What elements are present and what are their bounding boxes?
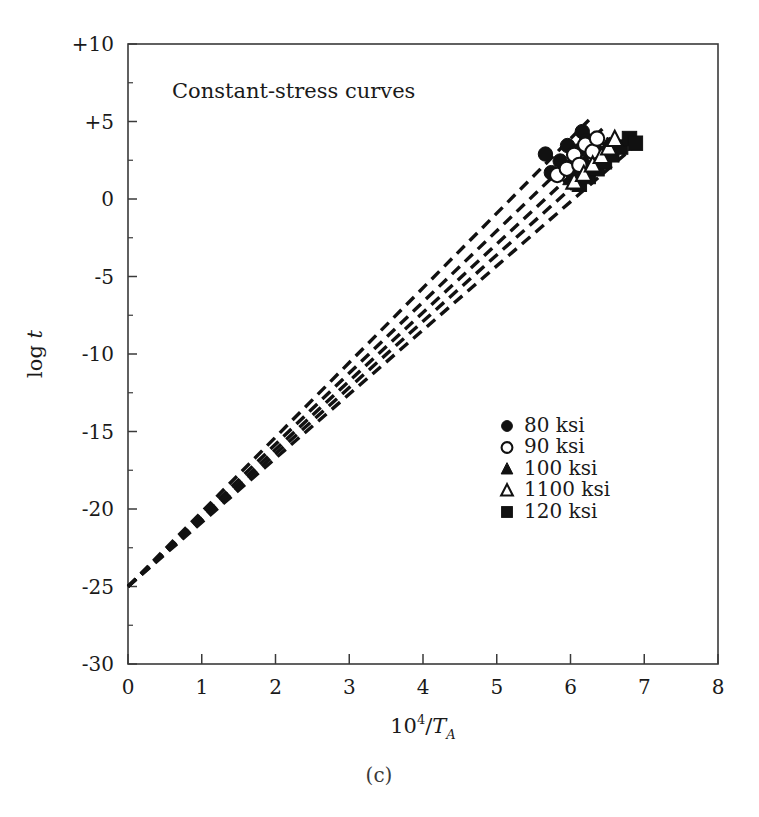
figure-caption: (c) [366, 763, 393, 787]
svg-text:log t: log t [23, 329, 47, 377]
x-tick-label: 7 [638, 675, 651, 699]
y-axis-title-variable: t [23, 329, 47, 338]
x-axis-ticks: 012345678 [122, 654, 725, 699]
y-axis-title: log t [23, 329, 47, 377]
x-axis-title-base: 10 [390, 714, 417, 738]
legend-marker-open-circle [502, 442, 513, 453]
legend-marker-filled-circle [502, 421, 513, 432]
x-axis-title: 104/TA [390, 712, 456, 742]
legend-marker-filled-triangle [501, 463, 513, 474]
legend-label: 100 ksi [524, 456, 597, 480]
y-tick-label: -10 [82, 342, 114, 366]
legend-item-1100-ksi: 1100 ksi [501, 477, 610, 501]
legend-label: 90 ksi [524, 434, 585, 458]
x-tick-label: 4 [417, 675, 430, 699]
legend-item-120-ksi: 120 ksi [502, 499, 598, 523]
data-point [628, 136, 642, 150]
y-tick-label: -5 [95, 265, 114, 289]
legend-item-90-ksi: 90 ksi [502, 434, 585, 458]
x-tick-label: 2 [269, 675, 282, 699]
x-tick-label: 6 [564, 675, 577, 699]
y-tick-label: +10 [72, 32, 114, 56]
legend-label: 80 ksi [524, 413, 585, 437]
data-point [538, 147, 552, 161]
data-point [590, 131, 604, 145]
y-tick-label: -25 [82, 575, 114, 599]
legend-label: 1100 ksi [524, 477, 610, 501]
y-axis-title-prefix: log [23, 338, 47, 377]
legend-marker-open-triangle [501, 484, 513, 495]
y-tick-label: +5 [85, 110, 114, 134]
legend-item-80-ksi: 80 ksi [502, 413, 585, 437]
x-axis-title-exponent: 4 [417, 712, 425, 727]
x-axis-title-subscript: A [445, 727, 455, 742]
data-markers [538, 124, 642, 191]
x-tick-label: 8 [712, 675, 725, 699]
x-tick-label: 1 [195, 675, 208, 699]
x-tick-label: 3 [343, 675, 356, 699]
legend-item-100-ksi: 100 ksi [501, 456, 597, 480]
svg-text:104/TA: 104/TA [390, 712, 456, 742]
y-tick-label: -30 [82, 652, 114, 676]
figure-container: +10+50-5-10-15-20-25-30 012345678 Consta… [0, 0, 759, 817]
chart-canvas: +10+50-5-10-15-20-25-30 012345678 Consta… [0, 0, 759, 817]
x-tick-label: 0 [122, 675, 135, 699]
legend: 80 ksi90 ksi100 ksi1100 ksi120 ksi [501, 413, 610, 523]
y-tick-label: -15 [82, 420, 114, 444]
legend-label: 120 ksi [524, 499, 597, 523]
legend-marker-filled-square [502, 507, 513, 518]
y-tick-label: 0 [101, 187, 114, 211]
y-tick-label: -20 [82, 497, 114, 521]
x-tick-label: 5 [490, 675, 503, 699]
fit-line-80-ksi [128, 120, 589, 587]
plot-annotation: Constant-stress curves [172, 79, 415, 103]
